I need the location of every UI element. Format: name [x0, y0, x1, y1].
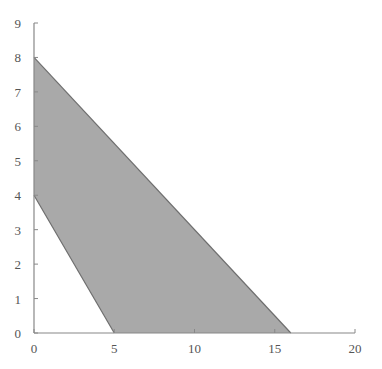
x-tick-label: 10	[188, 341, 201, 356]
x-tick-label: 20	[349, 341, 362, 356]
x-tick-label: 15	[268, 341, 281, 356]
y-tick-label: 2	[15, 257, 22, 272]
y-tick-label: 4	[15, 188, 22, 203]
x-tick-label: 5	[111, 341, 118, 356]
chart: 051015200123456789	[0, 0, 382, 369]
y-tick-label: 3	[15, 223, 22, 238]
y-tick-label: 6	[15, 119, 22, 134]
y-tick-label: 8	[15, 50, 22, 65]
y-tick-label: 9	[15, 16, 22, 31]
plot-area: 051015200123456789	[15, 16, 362, 356]
y-tick-label: 7	[15, 85, 22, 100]
y-tick-label: 0	[15, 326, 22, 341]
x-tick-label: 0	[31, 341, 38, 356]
y-tick-label: 1	[15, 292, 22, 307]
y-tick-label: 5	[15, 154, 22, 169]
